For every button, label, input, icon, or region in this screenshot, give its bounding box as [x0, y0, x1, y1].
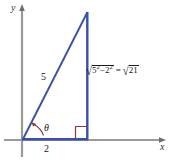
vertical-leg-expression: √52−22=√21	[86, 64, 139, 75]
vinculum-left: 52−22	[92, 65, 114, 75]
x-axis-label: x	[160, 142, 164, 152]
surd-glyph-right: √	[123, 64, 129, 77]
radical-left: √52−22	[86, 64, 114, 75]
equals-operator: =	[114, 65, 123, 75]
angle-arc	[34, 124, 44, 135]
right-angle-square	[76, 127, 88, 140]
radical-right: √21	[123, 64, 139, 75]
base-length-label: 2	[44, 144, 49, 154]
angle-theta-label: θ	[44, 123, 49, 133]
triangle	[22, 12, 88, 140]
right-triangle-figure: y x 5 2 θ √52−22=√21	[0, 0, 175, 164]
y-axis-label: y	[11, 3, 15, 13]
exponent-b: 2	[109, 63, 112, 70]
y-axis	[19, 4, 25, 157]
vinculum-right: 21	[129, 65, 139, 75]
angle-arc-marker	[32, 122, 44, 135]
figure-canvas	[0, 0, 175, 164]
right-angle-marker	[76, 127, 88, 140]
y-axis-arrowhead	[19, 4, 25, 11]
surd-glyph-left: √	[86, 64, 92, 77]
triangle-hypotenuse	[23, 12, 88, 140]
hypotenuse-label: 5	[41, 72, 46, 82]
result-radicand: 21	[129, 65, 138, 75]
